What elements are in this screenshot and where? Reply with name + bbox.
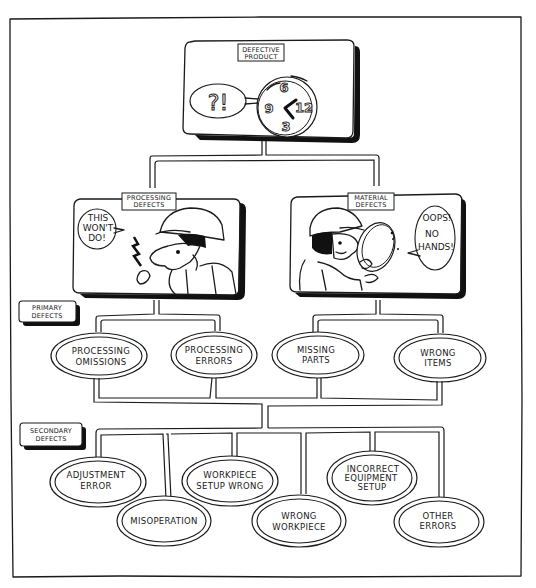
primary-1-line2: OMISSIONS	[76, 357, 127, 367]
primary-4-line1: WRONG	[420, 348, 455, 358]
level-label-secondary-defects: SECONDARY DEFECTS	[20, 423, 86, 450]
defect-tree-diagram: DEFECTIVE PRODUCT ?! 6 9 12 3 PROCESSING…	[0, 0, 536, 588]
processing-label-line2: DEFECTS	[134, 201, 165, 209]
category-processing-defects: PROCESSING DEFECTS THIS WON'T DO!	[73, 193, 246, 300]
material-speech-line1: OOPS!	[423, 213, 452, 223]
processing-speech-line2: WON'T	[83, 223, 114, 233]
root-bubble-tail	[245, 98, 258, 104]
clock-number-6: 6	[279, 80, 288, 95]
secondary-6-line1: OTHER	[422, 511, 453, 521]
secondary-label-line2: DEFECTS	[36, 435, 67, 443]
connector-material-to-primary	[313, 300, 443, 333]
clock-number-3: 3	[281, 119, 290, 134]
primary-defect-wrong-items: WRONG ITEMS	[394, 334, 486, 382]
clock-number-12: 12	[295, 100, 313, 115]
secondary-3-line1: WORKPIECE	[203, 470, 257, 480]
secondary-label-line1: SECONDARY	[30, 427, 72, 435]
secondary-defect-misoperation: MISOPERATION	[117, 496, 211, 546]
primary-3-line2: PARTS	[302, 355, 330, 365]
material-label-line2: DEFECTS	[356, 201, 387, 209]
processing-speech-line1: THIS	[87, 213, 109, 223]
primary-label-line2: DEFECTS	[32, 312, 63, 320]
primary-3-line1: MISSING	[297, 345, 335, 355]
secondary-3-line2: SETUP WRONG	[196, 481, 263, 491]
clock-icon: 6 9 12 3	[257, 76, 317, 137]
material-speech-line2: NO	[425, 229, 439, 239]
secondary-2-line1: MISOPERATION	[130, 516, 198, 526]
secondary-defect-other-errors: OTHER ERRORS	[394, 497, 484, 547]
primary-defect-processing-omissions: PROCESSING OMISSIONS	[51, 333, 147, 379]
secondary-4-line1: WRONG	[281, 511, 316, 521]
lightning-bolt-icon	[133, 237, 141, 266]
worker-figure-icon	[137, 208, 236, 294]
secondary-defect-incorrect-equipment-setup: INCORRECT EQUIPMENT SETUP	[327, 451, 417, 505]
connector-root-to-categories	[150, 140, 379, 188]
secondary-1-line1: ADJUSTMENT	[67, 470, 126, 480]
root-node-defective-product: DEFECTIVE PRODUCT ?! 6 9 12 3	[183, 40, 360, 143]
secondary-6-line2: ERRORS	[420, 521, 457, 531]
secondary-defect-workpiece-setup-wrong: WORKPIECE SETUP WRONG	[182, 456, 278, 506]
worker-figure-icon	[300, 208, 364, 290]
secondary-1-line2: ERROR	[80, 481, 111, 491]
primary-2-line1: PROCESSING	[185, 345, 243, 355]
category-material-defects: MATERIAL DEFECTS OOPS! NO HANDS!	[290, 193, 466, 299]
primary-label-line1: PRIMARY	[32, 304, 62, 312]
root-label-line2: PRODUCT	[244, 53, 277, 61]
secondary-defect-wrong-workpiece: WRONG WORKPIECE	[252, 495, 346, 547]
root-speech-text: ?!	[208, 90, 229, 115]
secondary-5-line3: SETUP	[358, 482, 387, 492]
primary-1-line1: PROCESSING	[72, 346, 130, 356]
primary-4-line2: ITEMS	[424, 358, 451, 368]
connector-primary-to-secondary	[94, 378, 442, 428]
primary-defect-processing-errors: PROCESSING ERRORS	[171, 332, 257, 378]
processing-speech-line3: DO!	[88, 233, 106, 243]
level-label-primary-defects: PRIMARY DEFECTS	[19, 301, 80, 326]
primary-defect-missing-parts: MISSING PARTS	[272, 332, 364, 378]
primary-2-line2: ERRORS	[196, 356, 233, 366]
secondary-4-line2: WORKPIECE	[272, 522, 326, 532]
connector-processing-to-primary	[96, 300, 220, 332]
clock-number-9: 9	[264, 101, 273, 116]
material-speech-line3: HANDS!	[418, 242, 454, 252]
secondary-defect-adjustment-error: ADJUSTMENT ERROR	[50, 457, 146, 507]
